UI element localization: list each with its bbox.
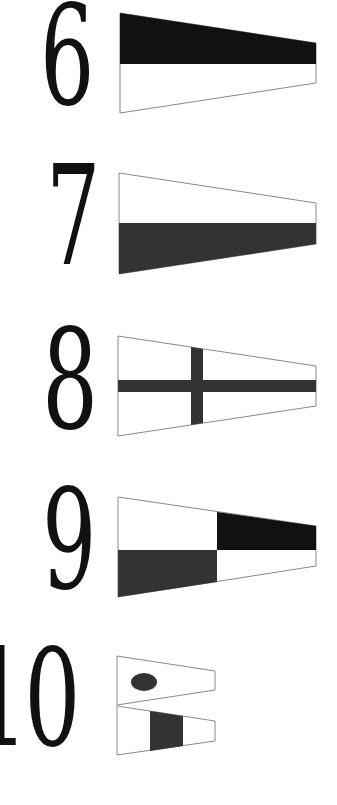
pennant-9 [118, 497, 316, 597]
pennant-10-top [117, 656, 215, 705]
pennant-7 [119, 173, 316, 274]
pennant-8 [118, 336, 316, 436]
pennant-10-bottom [117, 706, 215, 755]
flags-canvas [0, 0, 337, 805]
pennant-6 [120, 13, 316, 113]
